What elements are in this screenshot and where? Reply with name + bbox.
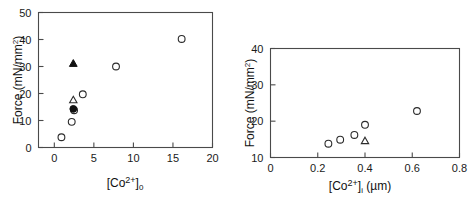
right-x-ticklabel: 0.4 (357, 162, 372, 174)
right-x-ticklabel: 0.6 (405, 162, 420, 174)
right-marker-open-circle (351, 132, 358, 139)
right-marker-open-circle (362, 121, 369, 128)
right-axes-group: 10203040 00.20.40.60.8 (251, 43, 467, 174)
right-y-axis-title: Force (mN/mm2) (243, 59, 257, 147)
right-x-ticklabel-group: 00.20.40.60.8 (267, 162, 467, 174)
right-scatter-panel: 10203040 00.20.40.60.8 Force (mN/mm2) [C… (0, 0, 474, 197)
right-marker-open-circle (337, 136, 344, 143)
right-x-axis-title: [Co2+]i (µm) (329, 178, 391, 195)
right-marker-open-triangle (361, 137, 368, 143)
right-y-ticklabel: 40 (251, 43, 263, 55)
right-x-ticklabel: 0 (267, 162, 273, 174)
right-marker-open-circle (325, 140, 332, 147)
right-plot-frame (271, 49, 460, 158)
right-marker-open-circle (414, 108, 421, 115)
right-y-ticklabel: 10 (251, 152, 263, 164)
right-y-tick-group (271, 49, 276, 158)
right-x-ticklabel: 0.8 (452, 162, 467, 174)
right-x-tick-group (271, 153, 460, 158)
right-x-ticklabel: 0.2 (310, 162, 325, 174)
right-data-markers (325, 108, 420, 148)
figure-container: 01020304050 05101520 Force (mN/mm2) [Co2… (0, 0, 474, 197)
right-panel-svg: 10203040 00.20.40.60.8 Force (mN/mm2) [C… (0, 0, 474, 197)
